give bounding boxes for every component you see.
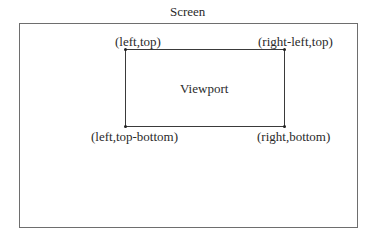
- viewport-title: Viewport: [180, 82, 228, 95]
- label-bottom-left: (left,top-bottom): [91, 130, 178, 143]
- corner-point-bottom-right: [283, 125, 286, 128]
- label-top-left: (left,top): [115, 35, 161, 48]
- label-bottom-right: (right,bottom): [257, 130, 330, 143]
- label-top-right: (right-left,top): [258, 35, 333, 48]
- corner-point-bottom-left: [124, 125, 127, 128]
- screen-title: Screen: [170, 4, 205, 20]
